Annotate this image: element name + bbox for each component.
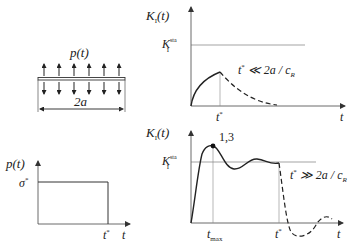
x-axis-label: t <box>337 227 341 241</box>
long-load-chart: 1,3 KI(t) KstaI t* ≫ 2a / cR tmax t* t <box>145 125 348 243</box>
short-load-chart: KI(t) KstaI t* ≪ 2a / cR t* t <box>145 7 345 124</box>
y-axis-label: KI(t) <box>145 125 169 142</box>
peak-label: 1,3 <box>219 130 234 144</box>
t-star-label: t* <box>103 228 110 242</box>
diagram-canvas: p(t) 2a p(t) <box>0 0 359 252</box>
plate-diagram: p(t) 2a <box>38 45 125 112</box>
static-level-label: KstaI <box>161 154 177 171</box>
peak-marker <box>211 144 216 149</box>
t-max-label: tmax <box>207 227 223 243</box>
plate <box>38 78 125 81</box>
up-arrows <box>44 64 119 76</box>
stress-intensity-curve <box>191 72 220 106</box>
sigma-label: σ* <box>19 176 29 190</box>
condition-label: t* ≪ 2a / cR <box>238 63 296 79</box>
static-level-label: KstaI <box>161 37 177 54</box>
y-axis-label: p(t) <box>5 156 25 171</box>
pulse-curve <box>38 182 108 224</box>
t-star-label: t* <box>216 110 223 124</box>
width-label: 2a <box>74 94 88 109</box>
x-axis-label: t <box>122 228 126 242</box>
pulse-chart: p(t) σ* t* t <box>5 156 130 242</box>
x-axis-label: t <box>340 110 344 124</box>
down-arrows <box>44 82 119 94</box>
y-axis-label: KI(t) <box>145 8 169 25</box>
load-label: p(t) <box>69 45 89 60</box>
condition-label: t* ≫ 2a / cR <box>290 168 348 184</box>
stress-intensity-curve <box>191 146 279 223</box>
t-star-label: t* <box>275 227 282 241</box>
